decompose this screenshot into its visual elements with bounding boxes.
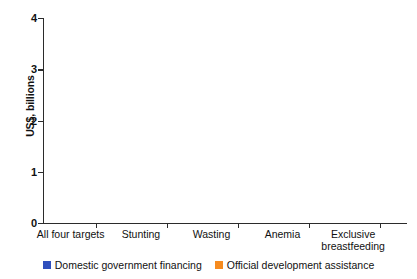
plot-area: 4 3 2 1 0: [43, 18, 407, 223]
y-tick-mark: [38, 223, 43, 224]
x-tick-separator: [167, 223, 168, 228]
y-tick-label: 1: [31, 166, 37, 177]
y-tick-label: 0: [31, 218, 37, 229]
legend-swatch-orange: [215, 261, 223, 269]
y-tick-label: 4: [31, 13, 37, 24]
legend-swatch-blue: [43, 261, 51, 269]
x-tick-separator: [309, 223, 310, 228]
legend-item-official-development-assistance: Official development assistance: [215, 260, 374, 271]
stacked-bar-chart: US$, billions 4 3 2 1 0: [0, 0, 417, 279]
y-tick-label: 2: [31, 115, 37, 126]
x-tick-separator: [238, 223, 239, 228]
legend-label: Official development assistance: [227, 260, 374, 271]
legend-label: Domestic government financing: [55, 260, 202, 271]
y-tick-label: 3: [31, 64, 37, 75]
chart-legend: Domestic government financing Official d…: [0, 260, 417, 271]
legend-item-domestic-government-financing: Domestic government financing: [43, 260, 202, 271]
x-axis-line: [43, 223, 407, 224]
x-tick-separator: [380, 223, 381, 228]
x-axis-category-label: Exclusive breastfeeding: [305, 229, 401, 252]
